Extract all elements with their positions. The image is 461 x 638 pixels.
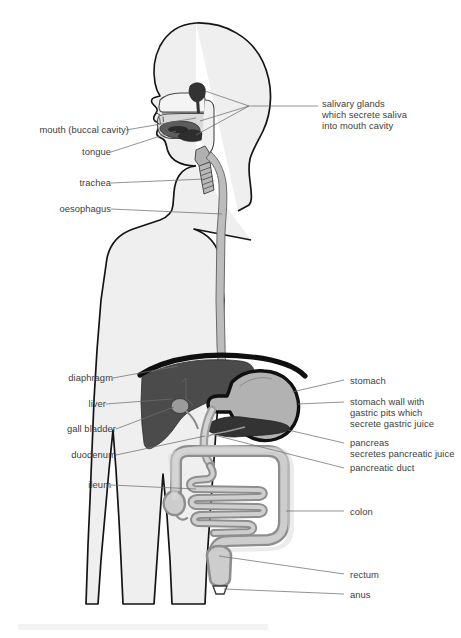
label-liver: liver [0, 398, 106, 409]
label-anus: anus [350, 589, 371, 600]
label-salivary-glands: salivary glands which secrete saliva int… [322, 98, 407, 132]
label-mouth: mouth (buccal cavity) [0, 124, 129, 135]
label-oesophagus: oesophagus [0, 203, 111, 214]
label-pancreas: pancreas secretes pancreatic juice [350, 437, 454, 459]
anus [213, 586, 227, 594]
diagram-canvas: mouth (buccal cavity) tongue trachea oes… [0, 0, 461, 638]
label-stomach: stomach [350, 375, 386, 386]
rectum [207, 546, 231, 586]
label-colon: colon [350, 506, 373, 517]
label-stomach-wall: stomach wall with gastric pits which sec… [350, 396, 434, 430]
label-tongue: tongue [0, 146, 111, 157]
label-pancreatic-duct: pancreatic duct [350, 462, 414, 473]
label-gall-bladder: gall bladder [0, 423, 116, 434]
label-ileum: ileum [0, 479, 111, 490]
label-duodenum: duodenum [0, 449, 116, 460]
salivary-gland-parotid [189, 83, 205, 102]
label-diaphragm: diaphragm [0, 372, 113, 383]
label-rectum: rectum [350, 569, 379, 580]
human-digestive-system-figure [0, 0, 461, 638]
page-bottom-smudge [18, 624, 268, 630]
label-trachea: trachea [0, 177, 111, 188]
